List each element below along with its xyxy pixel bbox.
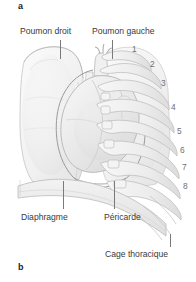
label-lung-right: Poumon droit (20, 27, 71, 36)
thorax-illustration (0, 0, 196, 282)
rib-number-1: 1 (132, 45, 137, 53)
anatomy-figure: a b Poumon droit Poumon gauche Diaphragm… (0, 0, 196, 282)
rib-number-3: 3 (161, 79, 166, 87)
label-lung-left: Poumon gauche (92, 27, 155, 36)
label-pericardium: Péricarde (104, 213, 141, 222)
panel-letter-a: a (18, 2, 23, 11)
rib-number-8: 8 (183, 182, 188, 190)
rib-number-7: 7 (182, 163, 187, 171)
rib-number-2: 2 (150, 60, 155, 68)
leader-line-lung-right (60, 40, 61, 59)
rib-number-6: 6 (180, 146, 185, 154)
leader-line-diaphragm (63, 181, 64, 209)
leader-line-pericardium (114, 181, 115, 209)
art-group (18, 44, 181, 240)
panel-letter-b: b (18, 263, 24, 272)
leader-line-lung-left (112, 40, 113, 59)
label-rib-cage: Cage thoracique (105, 250, 168, 259)
rib-number-4: 4 (171, 103, 176, 111)
label-diaphragm: Diaphragme (21, 213, 68, 222)
leader-line-rib-cage (170, 234, 171, 247)
rib-number-5: 5 (177, 127, 182, 135)
